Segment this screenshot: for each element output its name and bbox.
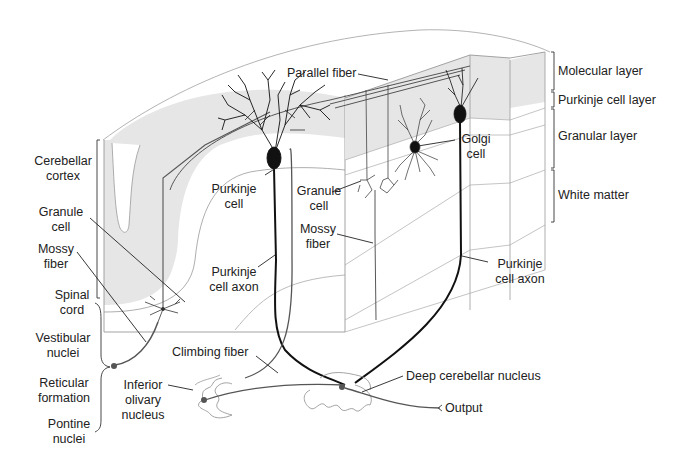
label-climbing-fiber: Climbing fiber <box>172 345 248 360</box>
label-granular-layer: Granular layer <box>558 129 637 144</box>
brainstem-bracket <box>95 303 110 432</box>
olive-to-deep-nucleus-fiber <box>205 384 345 400</box>
inferior-olive-dot <box>201 397 207 403</box>
side-molecular-fill-3 <box>510 52 545 108</box>
purkinje-axon-right <box>355 122 461 383</box>
label-cerebellar-cortex: Cerebellar cortex <box>33 154 93 184</box>
label-granule-cell-mid: Granule cell <box>294 184 344 214</box>
label-golgi-cell: Golgi cell <box>458 132 494 162</box>
mossy-fiber-mid <box>375 190 376 320</box>
layer-brackets <box>551 52 554 222</box>
output-fiber <box>345 388 440 408</box>
side-molecular-fill-2 <box>470 55 510 120</box>
label-output: Output <box>445 401 483 416</box>
brainstem-origin-dot <box>111 363 117 369</box>
label-purkinje-cell-axon-left: Purkinje cell axon <box>204 265 264 295</box>
label-spinal-cord: Spinal cord <box>50 288 94 318</box>
label-granule-cell-left: Granule cell <box>35 205 87 235</box>
cortex-bracket <box>97 140 100 298</box>
label-inferior-olivary-nucleus: Inferior olivary nucleus <box>118 378 168 423</box>
label-mossy-fiber-mid: Mossy fiber <box>298 222 338 252</box>
label-purkinje-cell-axon-right: Purkinje cell axon <box>490 257 550 287</box>
label-mossy-fiber-left: Mossy fiber <box>35 242 77 272</box>
deep-nucleus-dot <box>339 384 345 390</box>
label-white-matter: White matter <box>558 188 629 203</box>
label-pontine-nuclei: Pontine nuclei <box>44 417 94 447</box>
label-purkinje-cell-layer: Purkinje cell layer <box>558 93 656 108</box>
label-parallel-fiber: Parallel fiber <box>287 66 356 81</box>
label-purkinje-cell: Purkinje cell <box>206 182 262 212</box>
label-vestibular-nuclei: Vestibular nuclei <box>33 331 93 361</box>
label-molecular-layer: Molecular layer <box>558 64 643 79</box>
label-reticular-formation: Reticular formation <box>35 376 93 406</box>
label-deep-cerebellar-nucleus: Deep cerebellar nucleus <box>406 369 541 384</box>
mossy-fiber-left <box>115 322 158 365</box>
